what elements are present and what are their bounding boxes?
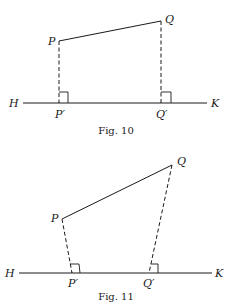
label-h: H	[4, 267, 15, 280]
right-angle-mark-q	[151, 264, 158, 273]
caption-fig-10: Fig. 10	[98, 125, 134, 136]
right-angle-mark-p	[59, 92, 68, 103]
right-angle-mark-q	[161, 92, 171, 103]
figure-11: P Q H K P′ Q′ Fig. 11	[4, 155, 224, 302]
figure-10: P Q H K P′ Q′ Fig. 10	[8, 13, 220, 136]
label-q-foot: Q′	[143, 277, 155, 290]
label-p: P	[47, 35, 56, 48]
diagram-canvas: P Q H K P′ Q′ Fig. 10 P Q H K P′ Q′ Fig.…	[0, 0, 233, 302]
caption-fig-11: Fig. 11	[98, 291, 134, 302]
projection-pp	[62, 219, 72, 273]
label-k: K	[210, 97, 220, 110]
label-p-foot: P′	[67, 277, 78, 290]
projection-qq	[149, 165, 172, 273]
label-p-foot: P′	[54, 108, 65, 121]
segment-pq	[59, 21, 161, 41]
label-q: Q	[177, 155, 186, 168]
label-q: Q	[165, 13, 174, 26]
label-k: K	[214, 267, 224, 280]
segment-pq	[62, 165, 172, 219]
label-h: H	[8, 97, 19, 110]
label-p: P	[50, 212, 59, 225]
label-q-foot: Q′	[156, 108, 168, 121]
